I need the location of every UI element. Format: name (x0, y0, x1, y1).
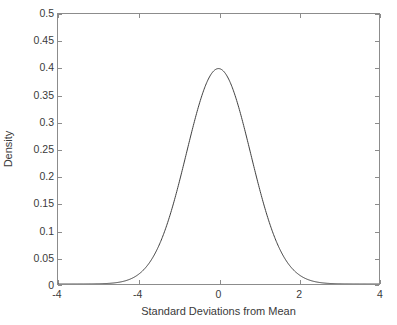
y-tick-mark (58, 285, 62, 286)
y-tick-label: 0.2 (39, 171, 54, 182)
x-tick-label: 4 (377, 289, 383, 300)
y-tick-mark-right (375, 285, 379, 286)
y-axis-title-text: Density (2, 131, 14, 168)
x-tick-label: 0 (216, 289, 222, 300)
y-tick-label: 0.3 (39, 117, 54, 128)
y-tick-label: 0.15 (34, 198, 54, 209)
y-tick-label: 0.5 (39, 8, 54, 19)
y-tick-label: 0.45 (34, 35, 54, 46)
x-tick-label: -4 (133, 289, 142, 300)
x-tick-label: -4 (52, 289, 61, 300)
x-tick-mark-top (380, 14, 381, 18)
x-axis-title: Standard Deviations from Mean (57, 305, 380, 317)
figure-canvas: Density 0.5 0.45 0.4 0.35 0.3 0.25 0.2 0… (0, 0, 397, 325)
y-tick-label: 0.05 (34, 253, 54, 264)
x-tick-mark (380, 280, 381, 284)
plot-area (57, 13, 380, 285)
y-tick-label: 0.1 (39, 225, 54, 236)
y-tick-label: 0.25 (34, 144, 54, 155)
y-tick-label: 0.35 (34, 89, 54, 100)
density-curve (58, 14, 379, 284)
y-axis-title: Density (0, 13, 16, 285)
x-tick-label: 2 (296, 289, 302, 300)
y-tick-label: 0.4 (39, 62, 54, 73)
